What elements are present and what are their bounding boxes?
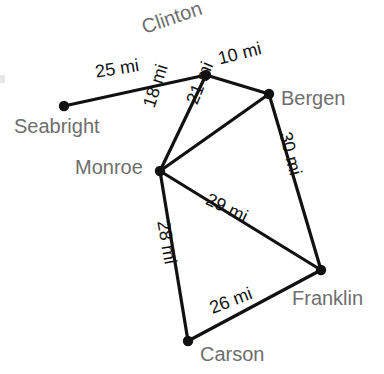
city-label-carson: Carson bbox=[200, 344, 264, 364]
graph-canvas bbox=[0, 0, 384, 374]
graph-node-monroe bbox=[155, 166, 165, 176]
city-label-monroe: Monroe bbox=[75, 157, 143, 177]
nodes-group bbox=[59, 70, 326, 346]
graph-node-seabright bbox=[59, 101, 69, 111]
graph-node-franklin bbox=[316, 265, 326, 275]
graph-edge-clinton-bergen bbox=[206, 75, 269, 94]
city-label-bergen: Bergen bbox=[281, 88, 346, 108]
city-label-franklin: Franklin bbox=[292, 288, 363, 308]
graph-node-carson bbox=[183, 336, 193, 346]
weighted-graph-diagram: 25 mi10 mi18 mi21 mi30 mi29 mi28 mi26 mi… bbox=[0, 0, 384, 374]
edges-group bbox=[64, 75, 321, 341]
city-label-seabright: Seabright bbox=[14, 116, 100, 136]
graph-edge-monroe-bergen bbox=[160, 94, 269, 171]
graph-node-bergen bbox=[264, 89, 274, 99]
